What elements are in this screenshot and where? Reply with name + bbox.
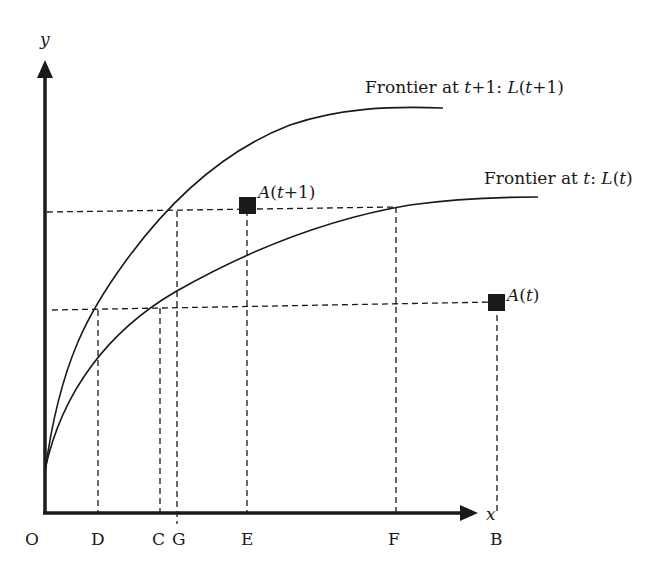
x-axis-arrow-icon: [460, 505, 478, 521]
tick-label-F: F: [388, 529, 400, 549]
tick-label-B: B: [490, 529, 503, 549]
origin-label: O: [25, 529, 39, 549]
frontier-t-label: Frontier at t: L(t): [484, 168, 633, 188]
guide-h-lower: [52, 302, 495, 310]
frontier-diagram: y x O D C G E F B Frontier at t+1: L(t+1…: [0, 0, 654, 576]
tick-label-E: E: [241, 529, 253, 549]
x-axis-label: x: [486, 504, 496, 524]
guide-lines: [47, 207, 497, 524]
guide-h-upper: [47, 207, 396, 212]
y-axis-arrow-icon: [37, 60, 53, 78]
point-A-t1-marker: [239, 197, 256, 214]
tick-label-G: G: [172, 529, 186, 549]
frontier-t1-curve: [45, 107, 443, 472]
frontier-t-curve: [45, 197, 538, 470]
point-A-t-label: A(t): [505, 285, 539, 305]
tick-label-D: D: [91, 529, 105, 549]
point-A-t-marker: [488, 294, 505, 311]
y-axis-label: y: [39, 29, 50, 49]
point-A-t1-label: A(t+1): [256, 182, 315, 202]
frontier-t1-label: Frontier at t+1: L(t+1): [365, 77, 564, 97]
tick-label-C: C: [152, 529, 165, 549]
